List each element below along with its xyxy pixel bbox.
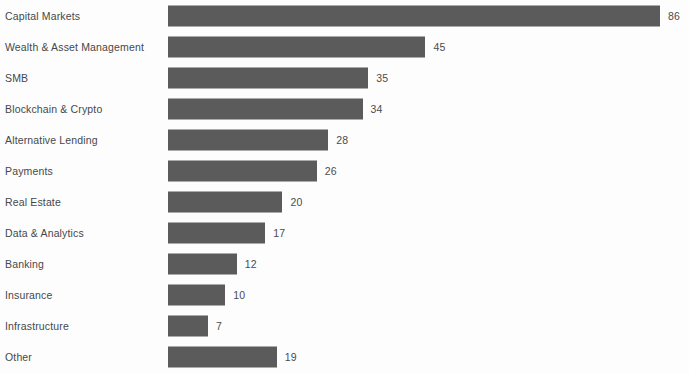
category-label: Wealth & Asset Management [5, 41, 144, 53]
category-label: Banking [5, 258, 44, 270]
bar-value-label: 34 [371, 103, 383, 115]
bar [168, 5, 660, 26]
bar-row: Other19 [0, 341, 689, 372]
category-label: Blockchain & Crypto [5, 103, 102, 115]
bar [168, 129, 328, 150]
bar-value-label: 45 [433, 41, 445, 53]
bar-row: Real Estate20 [0, 186, 689, 217]
bar-track: 17 [168, 222, 285, 243]
bar-track: 34 [168, 98, 382, 119]
bar-track: 35 [168, 67, 388, 88]
bar [168, 160, 317, 181]
category-label: Other [5, 351, 32, 363]
bar-row: Alternative Lending28 [0, 124, 689, 155]
horizontal-bar-chart: Capital Markets86Wealth & Asset Manageme… [0, 0, 689, 373]
category-label: SMB [5, 72, 28, 84]
category-label: Data & Analytics [5, 227, 84, 239]
bar-row: Payments26 [0, 155, 689, 186]
bar-track: 45 [168, 36, 445, 57]
bar [168, 191, 282, 212]
bar-value-label: 86 [668, 10, 680, 22]
bar-track: 26 [168, 160, 337, 181]
bar [168, 346, 277, 367]
bar-track: 20 [168, 191, 302, 212]
bar-value-label: 10 [233, 289, 245, 301]
bar-value-label: 7 [216, 320, 222, 332]
bar-track: 19 [168, 346, 297, 367]
bar-value-label: 20 [290, 196, 302, 208]
bar-value-label: 28 [336, 134, 348, 146]
bar-value-label: 12 [245, 258, 257, 270]
category-label: Real Estate [5, 196, 61, 208]
bar-row: SMB35 [0, 62, 689, 93]
bar-track: 86 [168, 5, 680, 26]
bar-value-label: 35 [376, 72, 388, 84]
category-label: Infrastructure [5, 320, 69, 332]
bar-track: 10 [168, 284, 245, 305]
bar-row: Blockchain & Crypto34 [0, 93, 689, 124]
bar-row: Capital Markets86 [0, 0, 689, 31]
bar-row: Insurance10 [0, 279, 689, 310]
bar [168, 222, 265, 243]
bar-value-label: 17 [273, 227, 285, 239]
category-label: Payments [5, 165, 53, 177]
bar [168, 98, 363, 119]
bar-value-label: 19 [285, 351, 297, 363]
bar-track: 7 [168, 315, 222, 336]
bar [168, 284, 225, 305]
bar-value-label: 26 [325, 165, 337, 177]
bar [168, 315, 208, 336]
bar-track: 28 [168, 129, 348, 150]
bar [168, 67, 368, 88]
bar-row: Infrastructure7 [0, 310, 689, 341]
bar [168, 36, 425, 57]
category-label: Alternative Lending [5, 134, 98, 146]
bar [168, 253, 237, 274]
bar-row: Banking12 [0, 248, 689, 279]
category-label: Capital Markets [5, 10, 80, 22]
bar-track: 12 [168, 253, 257, 274]
category-label: Insurance [5, 289, 52, 301]
bar-row: Wealth & Asset Management45 [0, 31, 689, 62]
bar-row: Data & Analytics17 [0, 217, 689, 248]
